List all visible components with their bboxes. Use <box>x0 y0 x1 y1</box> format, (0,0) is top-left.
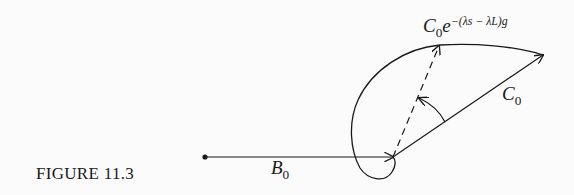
rotation-arc-arrow-icon <box>419 98 445 122</box>
trajectory-loop <box>351 44 543 178</box>
b0-label: B0 <box>271 157 289 183</box>
c0-label: C0 <box>502 83 521 109</box>
figure-caption: FIGURE 11.3 <box>36 164 134 184</box>
rotated-vector-dashed <box>393 46 439 157</box>
rotated-vector-label: C0e−(λs − λL)g <box>423 15 508 41</box>
figure-canvas: FIGURE 11.3 B0 C0 C0e−(λs − λL)g <box>0 0 574 195</box>
